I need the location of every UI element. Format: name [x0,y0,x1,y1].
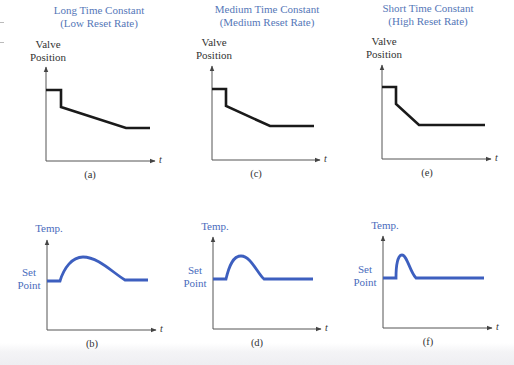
valve-panel-a [46,67,155,161]
temp-curve [213,256,313,279]
temp-panel-b [47,240,156,330]
temp-curve [383,255,484,278]
valve-curve [382,87,485,125]
valve-curve [46,90,150,128]
temp-panel-f [383,236,492,328]
diagram-canvas [0,0,514,365]
temp-panel-d [213,237,321,329]
temp-curve [47,257,148,281]
valve-panel-c [212,66,320,160]
valve-curve [212,89,314,126]
valve-panel-e [382,65,491,159]
